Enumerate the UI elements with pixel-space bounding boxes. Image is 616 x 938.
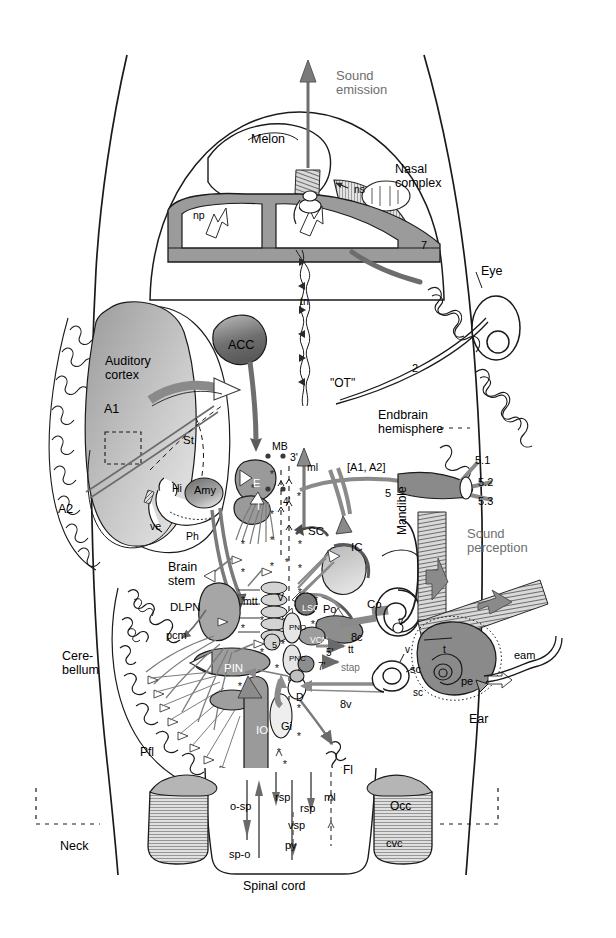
anatomy-label-cvc: cvc xyxy=(386,838,403,850)
anatomy-label-eight-c: 8c xyxy=(351,632,363,644)
anatomy-label-nerve-5-3: 5.3 xyxy=(478,496,493,508)
anatomy-label-np: np xyxy=(193,210,205,221)
anatomy-label-vcn: VCN xyxy=(310,636,328,645)
anatomy-label-i-nucleus: I xyxy=(257,501,260,513)
anatomy-label-pin: PIN xyxy=(224,662,243,674)
svg-text:*: * xyxy=(270,468,275,480)
anatomy-label-nerve-7: 7 xyxy=(421,240,427,252)
svg-text:*: * xyxy=(297,490,302,502)
svg-text:*: * xyxy=(270,560,275,572)
anatomy-label-nerve-5-2: 5.2 xyxy=(478,477,493,489)
anatomy-label-vsp: vsp xyxy=(288,820,305,832)
svg-text:*: * xyxy=(297,730,302,742)
anatomy-label-a1a2-bracket: [A1, A2] xyxy=(347,462,386,474)
anatomy-label-melon: Melon xyxy=(251,133,285,147)
svg-text:*: * xyxy=(270,534,275,546)
anatomy-label-pe: pe xyxy=(461,676,473,688)
anatomy-label-ph: Ph xyxy=(186,531,199,542)
anatomy-label-sc-canal: sc xyxy=(410,664,421,676)
svg-text:*: * xyxy=(297,702,302,714)
anatomy-label-pcm: pcm xyxy=(166,630,187,642)
svg-text:*: * xyxy=(241,566,246,578)
anatomy-label-pfl: Pfl xyxy=(140,746,154,759)
anatomy-label-t-tympanic: t xyxy=(443,645,446,656)
sound-perception-callout: Soundperception xyxy=(467,527,528,555)
anatomy-label-three-prime: 3' xyxy=(290,452,298,463)
anatomy-label-hi: Hi xyxy=(172,483,182,494)
anatomy-label-mb: MB xyxy=(272,441,288,452)
anatomy-label-tt: tt xyxy=(348,645,354,656)
anatomy-label-sp-o: sp-o xyxy=(229,849,250,861)
svg-text:*: * xyxy=(298,562,303,574)
anatomy-label-rsp-1: rsp xyxy=(275,792,290,804)
svg-text:*: * xyxy=(270,508,275,520)
anatomy-label-five-prime: 5' xyxy=(326,648,333,659)
svg-text:*: * xyxy=(285,556,290,568)
svg-text:*: * xyxy=(275,662,280,674)
anatomy-label-eight-v: 8v xyxy=(340,699,352,711)
anatomy-label-ns: ns xyxy=(354,184,365,195)
anatomy-label-auditory-cortex: Auditorycortex xyxy=(105,355,151,382)
anatomy-label-ear: Ear xyxy=(469,713,488,727)
anatomy-label-ml-top: ml xyxy=(307,462,318,473)
anatomy-label-pn-o: PNO xyxy=(289,624,306,633)
anatomy-label-v-ear: v xyxy=(405,645,410,656)
anatomy-label-acc: ACC xyxy=(228,339,254,353)
anatomy-label-nasal-complex: Nasalcomplex xyxy=(395,163,442,190)
anatomy-label-gi: Gi xyxy=(281,721,292,733)
anatomy-label-st: St xyxy=(183,434,194,446)
sound-emission-callout: Soundemission xyxy=(336,69,387,97)
svg-text:*: * xyxy=(241,538,246,550)
anatomy-label-spinal-cord: Spinal cord xyxy=(243,880,306,894)
anatomy-label-eam: eam xyxy=(514,650,535,662)
anatomy-label-mandible: Mandible xyxy=(396,486,409,535)
anatomy-label-sc: SC xyxy=(308,525,324,537)
anatomy-label-ic: IC xyxy=(351,541,363,553)
anatomy-label-occ: Occ xyxy=(390,800,411,813)
anatomy-label-ve: ve xyxy=(150,521,161,532)
anatomy-label-sc-left-ear: sc xyxy=(413,688,423,699)
anatomy-label-dlpn: DLPN xyxy=(170,601,201,613)
anatomy-label-po: Po xyxy=(323,604,336,616)
svg-text:*: * xyxy=(298,538,303,550)
anatomy-label-a1: A1 xyxy=(104,403,119,417)
anatomy-label-mtt: mtt xyxy=(243,596,258,607)
anatomy-label-py: py xyxy=(285,840,297,852)
anatomy-label-seven-prime: 7' xyxy=(318,662,325,673)
anatomy-label-nucleus-5: 5 xyxy=(272,641,277,651)
anatomy-label-co: Co xyxy=(367,598,382,610)
anatomy-label-o-sp: o-sp xyxy=(230,801,251,813)
anatomy-label-ml-bottom: ml xyxy=(324,792,336,804)
anatomy-label-pn-c: PNC xyxy=(289,655,306,664)
anatomy-label-amy: Amy xyxy=(194,485,216,497)
anatomy-label-io: IO xyxy=(256,724,268,736)
anatomy-label-fl: Fl xyxy=(343,764,353,777)
anatomy-label-cerebellum: Cere-bellum xyxy=(62,650,99,677)
anatomy-label-nerve-5-1: 5.1 xyxy=(475,455,490,467)
anatomy-label-endbrain: Endbrainhemisphere xyxy=(378,409,443,436)
anatomy-label-eye: Eye xyxy=(481,265,503,279)
anatomy-label-v-motor: V xyxy=(277,592,284,603)
anatomy-label-d-nucleus: D xyxy=(296,692,304,703)
anatomy-label-tn: tn xyxy=(300,296,309,307)
figure-canvas: ** ** ** ** * ** * ** ** ** ** ** ** ** … xyxy=(0,0,616,938)
anatomy-label-brain-stem: Brainstem xyxy=(168,561,197,588)
anatomy-label-nerve-2: 2 xyxy=(412,363,418,375)
anatomy-label-nerve-5: 5 xyxy=(385,488,391,500)
anatomy-label-ot: "OT" xyxy=(330,377,355,390)
anatomy-label-rsp-2: rsp xyxy=(300,803,315,815)
anatomy-label-a2: A2 xyxy=(58,503,73,517)
anatomy-label-neck: Neck xyxy=(60,840,88,854)
anatomy-label-four-prime: 4' xyxy=(283,497,290,508)
anatomy-label-e-nucleus: E xyxy=(253,478,260,490)
anatomy-label-v-small: v xyxy=(398,617,403,628)
anatomy-label-stap: stap xyxy=(341,663,360,674)
anatomy-label-lso: LSO xyxy=(302,604,320,614)
